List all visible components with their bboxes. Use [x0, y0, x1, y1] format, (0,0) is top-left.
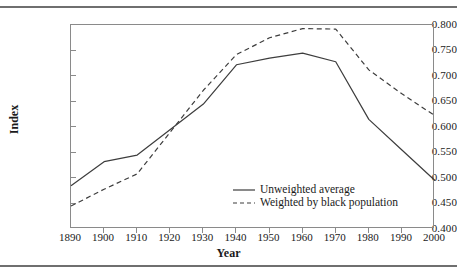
x-axis-tick-label: 2000: [414, 232, 454, 243]
figure-container: Index Year 0.4000.4500.5000.5500.6000.65…: [0, 0, 457, 274]
x-axis-title: Year: [0, 246, 457, 261]
series-line: [71, 53, 435, 186]
dashed-line-icon: [233, 199, 255, 207]
legend-entry: Unweighted average: [233, 183, 398, 196]
legend-label: Unweighted average: [260, 183, 355, 196]
figure-rule-bottom: [0, 265, 457, 267]
legend-entry: Weighted by black population: [233, 196, 398, 209]
chart-legend: Unweighted averageWeighted by black popu…: [233, 183, 398, 209]
figure-rule-top: [0, 6, 457, 8]
y-axis-title: Index: [7, 90, 22, 150]
solid-line-icon: [233, 186, 255, 194]
series-line: [71, 29, 435, 206]
legend-label: Weighted by black population: [260, 196, 398, 209]
